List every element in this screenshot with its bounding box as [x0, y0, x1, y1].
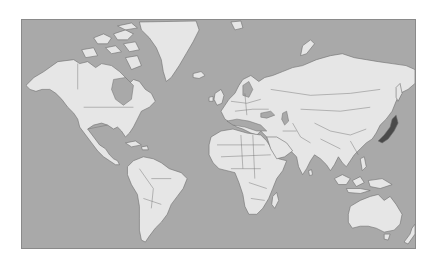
world-map: [21, 19, 416, 249]
page: [0, 0, 435, 266]
sri-lanka: [309, 170, 313, 176]
world-map-svg: [22, 20, 415, 248]
